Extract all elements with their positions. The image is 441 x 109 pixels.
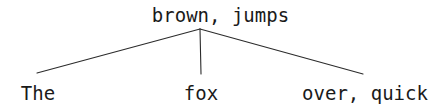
tree-edge-root-to-leaf-0	[37, 29, 200, 73]
tree-edge-root-to-leaf-1	[200, 29, 201, 74]
syntax-tree-figure: brown, jumps The fox over, quick	[0, 0, 441, 109]
tree-root-node-label: brown, jumps	[0, 5, 441, 25]
tree-leaf-node-label-0: The	[0, 83, 76, 103]
tree-leaf-node-label-2: over, quick	[289, 83, 441, 103]
tree-leaf-node-label-1: fox	[163, 83, 239, 103]
tree-edge-root-to-leaf-2	[200, 29, 363, 74]
